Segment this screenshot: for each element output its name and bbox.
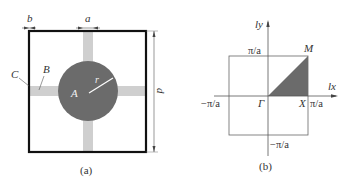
a-arrow-left-icon — [78, 27, 83, 30]
lx-arrow-icon — [331, 94, 338, 97]
panel-a: b a d C B A r (a) — [11, 12, 167, 177]
scatterer-circle — [58, 61, 118, 121]
d-arrow-top-icon — [153, 31, 156, 37]
b-arrow-left-icon — [24, 27, 29, 30]
axis-label-lx: lx — [328, 80, 336, 92]
ly-arrow-icon — [266, 20, 269, 27]
point-X: X — [298, 97, 307, 109]
axis-label-ly: ly — [255, 18, 263, 30]
tick-bottom: −π/a — [270, 139, 289, 150]
label-b: b — [27, 12, 33, 24]
C-leader-line — [19, 78, 29, 86]
label-a: a — [85, 12, 91, 24]
point-gamma: Γ — [257, 97, 265, 109]
irreducible-zone-triangle — [268, 56, 308, 96]
label-r: r — [95, 74, 99, 85]
tick-left: −π/a — [201, 98, 220, 109]
panel-b: ly lx π/a π/a −π/a −π/a Γ X M (b) — [201, 18, 338, 173]
label-d: d — [155, 88, 167, 94]
label-B: B — [43, 63, 50, 75]
label-A: A — [70, 87, 78, 99]
tick-right: π/a — [310, 98, 323, 109]
a-arrow-right-icon — [93, 27, 98, 30]
d-arrow-bottom-icon — [153, 146, 156, 152]
b-arrow-right-icon — [30, 27, 35, 30]
caption-b: (b) — [259, 160, 272, 173]
point-M: M — [303, 42, 314, 54]
tick-top: π/a — [248, 45, 261, 56]
figure-canvas: b a d C B A r (a) ly lx π/a — [0, 0, 346, 185]
caption-a: (a) — [80, 164, 93, 177]
label-C: C — [11, 68, 19, 80]
